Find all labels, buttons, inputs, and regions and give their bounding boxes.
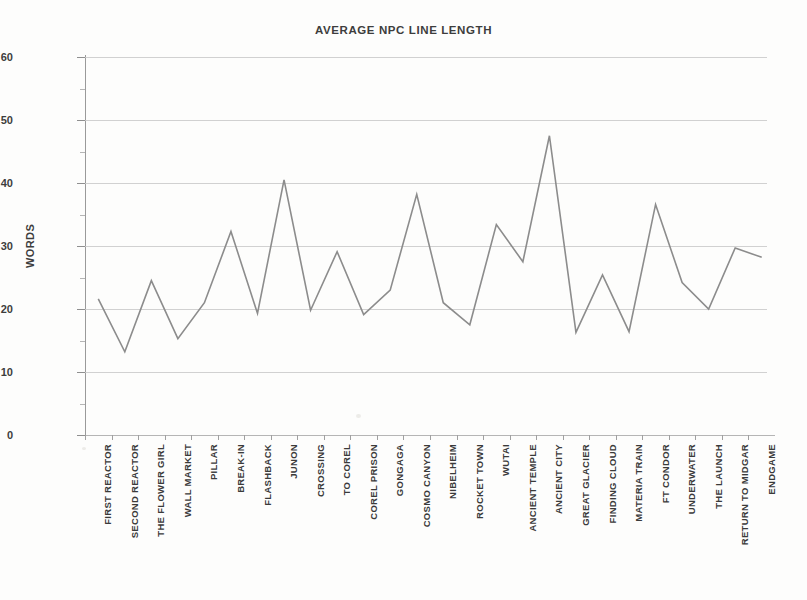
x-tick-9: [324, 435, 325, 440]
x-tick-19: [589, 435, 590, 440]
x-tick-25: [748, 435, 749, 440]
y-axis-title: WORDS: [24, 224, 36, 268]
x-tick-label-20: MATERIA TRAIN: [633, 444, 644, 522]
x-tick-24: [722, 435, 723, 440]
y-tick-label-50: 50: [0, 114, 13, 126]
x-tick-6: [244, 435, 245, 440]
y-major-tick-50: [77, 120, 85, 121]
x-tick-10: [350, 435, 351, 440]
x-tick-0: [85, 435, 86, 440]
y-tick-label-20: 20: [0, 303, 13, 315]
y-major-tick-40: [77, 183, 85, 184]
y-tick-label-30: 30: [0, 240, 13, 252]
x-tick-label-1: SECOND REACTOR: [129, 444, 140, 538]
x-tick-15: [483, 435, 484, 440]
scan-artifact: [356, 414, 361, 418]
x-tick-label-24: RETURN TO MIDGAR: [739, 444, 750, 545]
y-tick-label-10: 10: [0, 366, 13, 378]
y-tick-label-60: 60: [0, 51, 13, 63]
x-tick-label-0: FIRST REACTOR: [102, 444, 113, 525]
x-tick-label-4: PILLAR: [208, 444, 219, 480]
x-tick-4: [191, 435, 192, 440]
x-tick-label-15: WUTAI: [500, 444, 511, 476]
x-tick-label-18: GREAT GLACIER: [580, 444, 591, 526]
x-tick-label-11: GONGAGA: [394, 444, 405, 496]
x-tick-23: [695, 435, 696, 440]
y-major-tick-20: [77, 309, 85, 310]
x-tick-label-19: FINDING CLOUD: [607, 444, 618, 523]
x-tick-label-10: COREL PRISON: [368, 444, 379, 520]
chart-title: AVERAGE NPC LINE LENGTH: [0, 24, 807, 36]
y-major-tick-0: [77, 435, 85, 436]
x-tick-label-22: UNDERWATER: [686, 444, 697, 514]
x-tick-16: [510, 435, 511, 440]
x-tick-label-23: THE LAUNCH: [713, 444, 724, 509]
x-tick-11: [377, 435, 378, 440]
x-tick-label-13: NIBELHEIM: [447, 444, 458, 499]
x-tick-label-2: THE FLOWER GIRL: [155, 444, 166, 537]
x-tick-label-12: COSMO CANYON: [421, 444, 432, 527]
y-major-tick-60: [77, 57, 85, 58]
x-tick-label-5: BREAK-IN: [235, 444, 246, 493]
y-tick-label-0: 0: [0, 429, 13, 441]
x-tick-3: [165, 435, 166, 440]
series-line-chart: [85, 57, 775, 435]
y-major-tick-10: [77, 372, 85, 373]
x-tick-label-17: ANCIENT CITY: [553, 444, 564, 514]
x-tick-label-9: TO COREL: [341, 444, 352, 495]
series-line: [98, 136, 761, 352]
x-tick-label-7: JUNON: [288, 444, 299, 479]
x-tick-17: [536, 435, 537, 440]
x-tick-20: [616, 435, 617, 440]
plot-area: [85, 57, 775, 435]
x-tick-12: [403, 435, 404, 440]
y-major-tick-30: [77, 246, 85, 247]
x-tick-21: [642, 435, 643, 440]
x-tick-13: [430, 435, 431, 440]
x-tick-label-25: ENDGAME: [766, 444, 777, 495]
x-tick-8: [297, 435, 298, 440]
y-tick-label-40: 40: [0, 177, 13, 189]
x-tick-5: [218, 435, 219, 440]
x-tick-18: [563, 435, 564, 440]
x-tick-7: [271, 435, 272, 440]
chart-page: AVERAGE NPC LINE LENGTH WORDS 0102030405…: [0, 0, 807, 600]
x-tick-2: [138, 435, 139, 440]
x-tick-label-6: FLASHBACK: [262, 444, 273, 506]
scan-artifact: [82, 447, 86, 450]
x-tick-22: [669, 435, 670, 440]
x-tick-label-3: WALL MARKET: [182, 444, 193, 517]
x-tick-label-8: CROSSING: [315, 444, 326, 497]
x-tick-label-21: FT CONDOR: [660, 444, 671, 503]
x-tick-label-14: ROCKET TOWN: [474, 444, 485, 519]
x-tick-14: [457, 435, 458, 440]
x-tick-1: [112, 435, 113, 440]
x-tick-label-16: ANCIENT TEMPLE: [527, 444, 538, 532]
